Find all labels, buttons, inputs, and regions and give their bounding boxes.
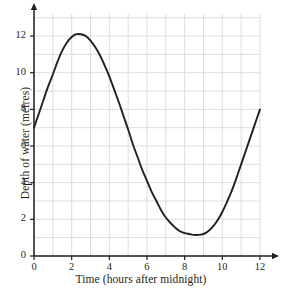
y-tick-label: 12 [8, 29, 26, 40]
x-tick-label: 2 [62, 261, 82, 272]
y-tick-label: 0 [8, 249, 26, 260]
x-tick-label: 8 [175, 261, 195, 272]
x-axis-title: Time (hours after midnight) [0, 273, 282, 285]
x-tick-label: 6 [137, 261, 157, 272]
x-tick-label: 10 [212, 261, 232, 272]
chart-container: 024681012 024681012 Time (hours after mi… [0, 0, 282, 294]
x-tick-label: 0 [24, 261, 44, 272]
axis-ticks [30, 36, 260, 260]
depth-of-water-line-chart [0, 0, 282, 294]
gridlines [34, 14, 260, 256]
x-tick-label: 12 [250, 261, 270, 272]
x-tick-label: 4 [99, 261, 119, 272]
y-axis-title: Depth of water (metres) [19, 48, 31, 238]
